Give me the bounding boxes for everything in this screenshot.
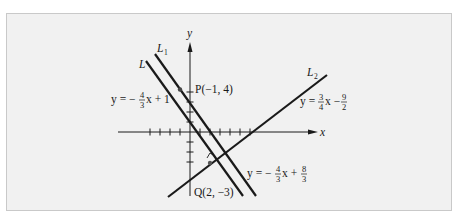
- svg-text:4: 4: [140, 90, 145, 100]
- svg-text:L: L: [138, 58, 145, 70]
- svg-text:9: 9: [342, 92, 346, 102]
- svg-text:3: 3: [276, 174, 280, 184]
- svg-text:2: 2: [314, 72, 318, 81]
- label-point-P: P(−1, 4): [195, 83, 233, 96]
- x-axis-arrow-icon: [308, 130, 318, 135]
- svg-text:y = −: y = −: [111, 93, 135, 106]
- svg-text:x +: x +: [282, 167, 297, 179]
- label-point-Q: Q(2, −3): [194, 186, 234, 199]
- equation-L1: y = − 4 3 x + 8 3: [247, 164, 307, 184]
- label-L1: L 1: [156, 42, 168, 57]
- svg-text:y =: y =: [300, 95, 315, 108]
- svg-text:4: 4: [319, 102, 324, 112]
- svg-text:2: 2: [342, 102, 346, 112]
- svg-text:y = −: y = −: [247, 167, 271, 180]
- coordinate-plane: x y L L 1 L 2 P(−1, 4) Q(2, −3): [0, 0, 459, 223]
- y-axis-arrow-icon: [188, 42, 193, 52]
- x-axis-label: x: [319, 126, 326, 138]
- svg-text:4: 4: [276, 164, 281, 174]
- svg-text:3: 3: [319, 92, 323, 102]
- svg-text:L: L: [156, 42, 163, 54]
- svg-text:3: 3: [302, 174, 306, 184]
- svg-text:1: 1: [164, 48, 168, 57]
- svg-text:x + 1: x + 1: [146, 93, 170, 105]
- svg-text:x −: x −: [325, 95, 340, 107]
- label-L2: L 2: [306, 66, 318, 81]
- svg-text:8: 8: [302, 164, 306, 174]
- x-axis: [118, 129, 318, 136]
- point-Q: [208, 161, 212, 165]
- svg-text:L: L: [306, 66, 313, 78]
- label-L: L: [138, 58, 145, 70]
- equation-L2: y = 3 4 x − 9 2: [300, 92, 347, 112]
- y-axis-label: y: [186, 27, 193, 40]
- point-P: [178, 87, 182, 91]
- line-L1: [155, 54, 256, 196]
- svg-text:3: 3: [140, 100, 144, 110]
- equation-L: y = − 4 3 x + 1: [111, 90, 170, 110]
